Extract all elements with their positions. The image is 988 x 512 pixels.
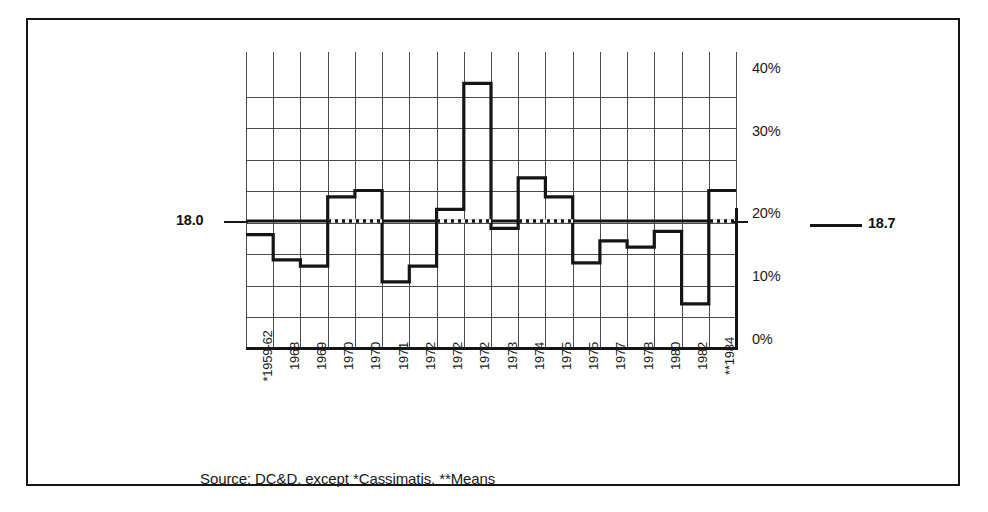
x-tick-label: 1978 — [627, 354, 654, 454]
mean-right-tick — [732, 221, 748, 223]
x-tick-label: 1971 — [382, 354, 409, 454]
step-polyline — [246, 83, 736, 304]
x-tick-label: 1977 — [600, 354, 627, 454]
chart-frame: 18.0 18.7 40% 30% 20% 10% 0% *1959-62 19… — [26, 18, 960, 486]
x-tick-label: 1970 — [328, 354, 355, 454]
y-tick-label-40: 40% — [752, 60, 780, 76]
y-tick-label-20: 20% — [752, 205, 780, 221]
y-tick-label-10: 10% — [752, 268, 780, 284]
x-tick-label: 1972 — [464, 354, 491, 454]
x-tick-label: 1970 — [355, 354, 382, 454]
source-note: Source: DC&D, except *Cassimatis, **Mean… — [200, 470, 495, 487]
x-tick-label: **1984 — [709, 354, 736, 454]
histogram-step-outline — [246, 44, 740, 352]
y-tick-label-30: 30% — [752, 123, 780, 139]
x-tick-label: 1975 — [545, 354, 572, 454]
mean-right-leader-line — [810, 224, 862, 227]
x-tick-label: 1974 — [518, 354, 545, 454]
x-tick-label: 1982 — [682, 354, 709, 454]
x-tick-label: 1980 — [654, 354, 681, 454]
mean-left-label: 18.0 — [176, 212, 203, 228]
chart-figure: 18.0 18.7 40% 30% 20% 10% 0% *1959-62 19… — [0, 0, 988, 512]
mean-reference-line — [246, 210, 738, 232]
x-tick-label: 1969 — [300, 354, 327, 454]
x-tick-label: 1972 — [437, 354, 464, 454]
mean-right-label: 18.7 — [868, 215, 895, 231]
x-tick-label: 1972 — [409, 354, 436, 454]
y-tick-label-0: 0% — [752, 331, 773, 347]
x-tick-label: 1975 — [573, 354, 600, 454]
mean-left-leader-line — [224, 221, 248, 223]
x-tick-label: *1959-62 — [246, 354, 273, 454]
x-tick-label: 1968 — [273, 354, 300, 454]
x-axis-labels: *1959-62 1968 1969 1970 1970 1971 1972 1… — [246, 354, 736, 458]
x-tick-label: 1973 — [491, 354, 518, 454]
